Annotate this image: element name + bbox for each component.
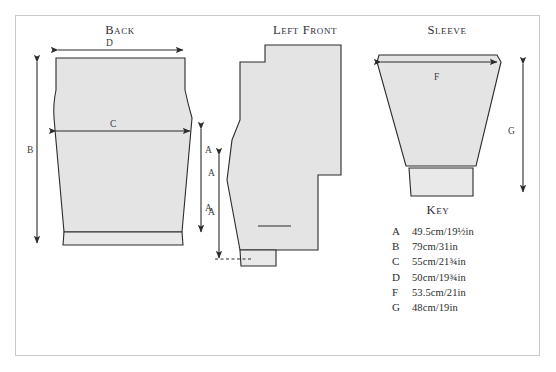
key-value: 53.5cm/21in <box>412 287 466 298</box>
key-row: G 48cm/19in <box>392 301 532 313</box>
key-letter: G <box>392 301 412 313</box>
key-row: C 55cm/21¾in <box>392 255 532 267</box>
key-value: 79cm/31in <box>412 241 458 252</box>
panel-title-back: Back <box>60 23 180 38</box>
dim-label-sleeve-F: F <box>434 72 439 82</box>
key-letter: B <box>392 240 412 252</box>
schematic-page: Back Left Front Sleeve <box>0 0 556 372</box>
key-legend: Key A 49.5cm/19½in B 79cm/31in C 55cm/21… <box>392 203 532 316</box>
key-row: F 53.5cm/21in <box>392 286 532 298</box>
dim-label-back-A-upper: A <box>205 145 212 155</box>
key-row: B 79cm/31in <box>392 240 532 252</box>
dim-label-back-C: C <box>110 119 116 129</box>
key-value: 55cm/21¾in <box>412 256 466 267</box>
key-row: D 50cm/19¾in <box>392 271 532 283</box>
dim-label-sleeve-G: G <box>508 126 515 136</box>
key-letter: A <box>392 225 412 237</box>
dim-label-left-front-A-upper: A <box>208 168 215 178</box>
panel-title-sleeve: Sleeve <box>392 23 502 38</box>
key-title: Key <box>392 203 484 218</box>
key-letter: F <box>392 286 412 298</box>
key-letter: C <box>392 255 412 267</box>
key-letter: D <box>392 271 412 283</box>
dim-label-back-B: B <box>27 145 33 155</box>
panel-title-left-front: Left Front <box>240 23 370 38</box>
key-row: A 49.5cm/19½in <box>392 225 532 237</box>
dim-label-left-front-A-lower: A <box>208 207 215 217</box>
key-value: 49.5cm/19½in <box>412 226 474 237</box>
dim-label-back-D: D <box>106 38 113 48</box>
key-value: 48cm/19in <box>412 302 458 313</box>
key-value: 50cm/19¾in <box>412 272 466 283</box>
